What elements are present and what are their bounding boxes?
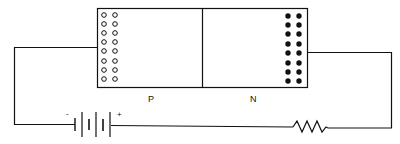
hole-icon <box>102 49 107 54</box>
electron-icon <box>285 31 290 36</box>
electron-icon <box>285 41 290 46</box>
left-wire <box>15 48 98 125</box>
electron-icon <box>296 60 301 65</box>
battery-negative-label: - <box>66 109 69 118</box>
battery-positive-label: + <box>117 110 122 119</box>
electron-icon <box>285 50 290 55</box>
electron-icon <box>285 69 290 74</box>
p-region-label: P <box>148 94 154 104</box>
hole-icon <box>102 31 107 36</box>
n-region-electrons <box>285 13 301 83</box>
battery-icon <box>75 112 110 137</box>
hole-icon <box>102 13 107 18</box>
electron-icon <box>296 41 301 46</box>
electrons-col-2 <box>296 13 301 83</box>
electron-icon <box>296 31 301 36</box>
electron-icon <box>296 13 301 18</box>
electron-icon <box>296 78 301 83</box>
electron-icon <box>296 69 301 74</box>
hole-icon <box>113 13 118 18</box>
hole-icon <box>113 40 118 45</box>
n-region-label: N <box>250 94 257 104</box>
right-wire <box>307 53 392 129</box>
electron-icon <box>285 13 290 18</box>
hole-icon <box>113 22 118 27</box>
hole-icon <box>102 22 107 27</box>
hole-icon <box>113 77 118 82</box>
hole-icon <box>113 59 118 64</box>
hole-icon <box>102 59 107 64</box>
bottom-wire <box>111 126 293 128</box>
hole-icon <box>102 40 107 45</box>
hole-icon <box>102 68 107 73</box>
hole-icon <box>113 68 118 73</box>
hole-icon <box>113 49 118 54</box>
electron-icon <box>285 22 290 27</box>
resistor-icon <box>293 121 328 132</box>
electron-icon <box>285 60 290 65</box>
p-region-holes <box>102 13 118 82</box>
electron-icon <box>296 50 301 55</box>
hole-icon <box>102 77 107 82</box>
electron-icon <box>296 22 301 27</box>
holes-col-2 <box>113 13 118 82</box>
hole-icon <box>113 31 118 36</box>
pn-junction-circuit: P N - + <box>0 0 400 144</box>
electrons-col-1 <box>285 13 290 83</box>
junction-block <box>98 9 308 88</box>
holes-col-1 <box>102 13 107 82</box>
electron-icon <box>285 78 290 83</box>
